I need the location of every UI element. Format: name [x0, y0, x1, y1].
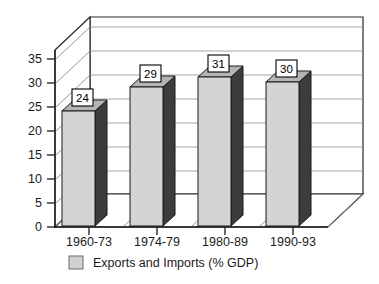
y-tick-label: 5	[35, 196, 42, 210]
value-label-text: 30	[280, 63, 293, 75]
x-axis	[55, 227, 328, 235]
bar-front-face	[130, 87, 163, 226]
legend-item-exports-imports[interactable]: Exports and Imports (% GDP)	[69, 256, 258, 270]
bar-front-face	[198, 77, 231, 226]
y-tick-label: 0	[35, 220, 42, 234]
y-tick-label: 25	[28, 100, 42, 114]
x-tick-label: 1980-89	[202, 235, 248, 249]
bar-side-face	[299, 71, 311, 226]
bar-chart-3d: 0 5 10 15 20 25 30 35	[0, 0, 379, 284]
y-tick-label: 15	[28, 148, 42, 162]
bar-front-face	[266, 82, 299, 226]
y-tick-label: 10	[28, 172, 42, 186]
y-tick-label: 30	[28, 76, 42, 90]
value-label-text: 24	[76, 92, 89, 104]
x-tick-labels: 1960-73 1974-79 1980-89 1990-93	[66, 235, 316, 249]
value-label-1980-89: 31	[208, 55, 229, 72]
bar-group-1980-89[interactable]	[198, 66, 243, 226]
y-tick-label: 20	[28, 124, 42, 138]
bar-group-1990-93[interactable]	[266, 71, 311, 226]
x-tick-label: 1990-93	[270, 235, 316, 249]
bar-group-1974-79[interactable]	[130, 76, 175, 226]
value-label-1990-93: 30	[276, 60, 297, 77]
bar-side-face	[163, 76, 175, 226]
value-label-1974-79: 29	[140, 65, 161, 82]
bar-side-face	[231, 66, 243, 226]
value-label-text: 29	[144, 68, 157, 80]
value-label-1960-73: 24	[72, 89, 93, 106]
legend-label: Exports and Imports (% GDP)	[93, 256, 258, 270]
value-label-text: 31	[212, 58, 225, 70]
chart-figure: 0 5 10 15 20 25 30 35	[0, 0, 379, 284]
bar-group-1960-73[interactable]	[62, 100, 107, 226]
y-tick-label: 35	[28, 52, 42, 66]
bar-side-face	[95, 100, 107, 226]
bar-front-face	[62, 111, 95, 226]
legend: Exports and Imports (% GDP)	[69, 256, 258, 270]
x-tick-label: 1974-79	[134, 235, 180, 249]
x-tick-label: 1960-73	[66, 235, 112, 249]
legend-swatch	[69, 256, 83, 269]
y-axis: 0 5 10 15 20 25 30 35	[28, 50, 55, 234]
